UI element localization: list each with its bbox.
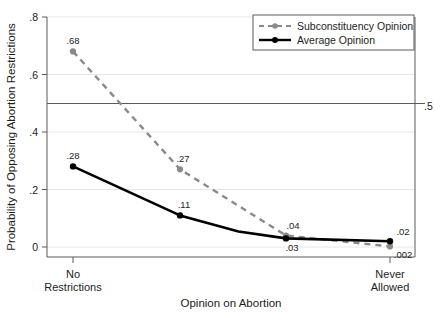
data-label-average-2: .11 [178, 199, 191, 210]
data-label-subconstituency-1: .68 [66, 35, 79, 46]
x-tick-label-allowed: Allowed [371, 281, 410, 293]
x-tick-label-never: Never [375, 268, 405, 280]
y-tick-label-0: 0 [32, 241, 38, 253]
data-label-average-1: .28 [66, 150, 79, 161]
data-point-average-2 [177, 212, 183, 218]
data-point-average-4 [387, 238, 393, 244]
legend-marker-average-icon [272, 37, 278, 43]
data-point-average-1 [70, 163, 76, 169]
y-tick-label-0.2: .2 [29, 184, 38, 196]
data-point-subconstituency-2 [177, 166, 183, 172]
data-point-subconstituency-1 [70, 48, 76, 54]
legend-label-subconstituency: Subconstituency Opinion [297, 20, 413, 32]
data-label-average-3: .03 [285, 242, 298, 253]
chart-figure: .5 .8 .6 .4 .2 0 No Restrictions Never A… [0, 0, 446, 313]
data-label-subconstituency-2: .27 [176, 153, 189, 164]
data-label-average-4: .02 [396, 226, 409, 237]
x-tick-label-restrictions: Restrictions [44, 281, 102, 293]
y-axis-title: Probability of Opposing Abortion Restric… [5, 23, 17, 251]
data-point-average-3 [283, 235, 289, 241]
legend-marker-subconstituency-icon [272, 23, 278, 29]
data-label-subconstituency-3: .04 [286, 220, 299, 231]
reference-line-label: .5 [424, 100, 433, 112]
x-tick-label-no: No [66, 268, 80, 280]
y-tick-label-0.8: .8 [29, 11, 38, 23]
legend-label-average: Average Opinion [297, 34, 375, 46]
chart-legend: Subconstituency Opinion Average Opinion [253, 15, 414, 50]
probability-line-chart: .5 .8 .6 .4 .2 0 No Restrictions Never A… [0, 0, 446, 313]
data-label-subconstituency-4: .002 [394, 249, 413, 260]
y-tick-label-0.6: .6 [29, 69, 38, 81]
y-tick-label-0.4: .4 [29, 126, 38, 138]
x-axis-title: Opinion on Abortion [180, 297, 281, 309]
